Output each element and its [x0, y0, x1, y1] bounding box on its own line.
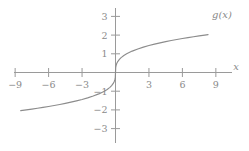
curve-label: g(x) [212, 9, 232, 20]
y-tick-label: −3 [93, 123, 107, 134]
x-axis-label: x [233, 61, 239, 72]
x-tick-label: −9 [8, 79, 22, 90]
y-tick-label: −2 [93, 104, 107, 115]
x-tick-label: −3 [75, 79, 89, 90]
x-tick-label: 3 [146, 79, 152, 90]
x-tick-label: −6 [42, 79, 56, 90]
y-tick-label: 1 [101, 48, 107, 59]
y-tick-label: 3 [101, 11, 107, 22]
chart-figure: −9−6−3369 −3−2−1123 x g(x) [0, 0, 249, 151]
y-tick-label: 2 [101, 30, 107, 41]
x-tick-label: 9 [213, 79, 219, 90]
cube-root-plot: −9−6−3369 −3−2−1123 x g(x) [0, 0, 249, 151]
x-tick-label: 6 [179, 79, 185, 90]
